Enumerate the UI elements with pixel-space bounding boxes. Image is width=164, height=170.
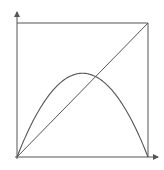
- parabola-curve: [17, 73, 148, 157]
- diagonal-line: [17, 23, 148, 157]
- curves: [17, 23, 148, 157]
- logistic-map-diagram: [0, 0, 164, 170]
